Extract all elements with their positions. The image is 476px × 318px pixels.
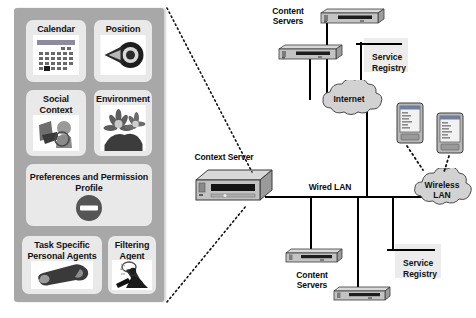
worker-shovel-icon — [112, 260, 152, 290]
tile-task-specific-agents[interactable]: Task Specific Personal Agents — [22, 236, 102, 294]
cloud-icon-internet: Internet — [313, 80, 385, 118]
wired-lan-bus — [265, 196, 425, 198]
tile-preferences-permission-label: Preferences and Permission Profile — [26, 172, 152, 193]
plants-flowers-icon — [101, 105, 146, 151]
tile-task-specific-agents-label: Task Specific Personal Agents — [22, 240, 102, 261]
tile-calendar[interactable]: Calendar — [26, 20, 86, 82]
server-icon-left — [274, 44, 344, 62]
wire-bus-to-service-registry-bottom — [392, 197, 394, 249]
dotted-link-pda-left — [407, 146, 423, 170]
pda-device-icon-left — [396, 102, 424, 144]
internet-cloud-label: Internet — [313, 80, 385, 118]
tile-filtering-agent-label: Filtering Agent — [108, 240, 156, 261]
wire-left-server-to-internet — [309, 58, 311, 100]
dotted-line-bottom — [167, 206, 246, 302]
wrench-icon — [31, 261, 93, 289]
server-icon-top — [316, 8, 386, 26]
target-arrow-icon — [101, 35, 146, 75]
wireless-lan-cloud-label: Wireless LAN — [408, 168, 476, 212]
diagram-canvas: Calendar — [0, 0, 476, 318]
tile-preferences-permission[interactable]: Preferences and Permission Profile — [26, 164, 152, 226]
pda-device-icon-right — [436, 112, 464, 154]
calendar-icon — [33, 35, 79, 75]
tile-environment-label: Environment — [94, 94, 152, 105]
context-server-icon — [192, 168, 276, 204]
tile-social-context[interactable]: Social Context — [26, 90, 86, 156]
tile-filtering-agent[interactable]: Filtering Agent — [108, 236, 156, 294]
tile-position-label: Position — [94, 24, 152, 35]
server-icon-bottom-left — [282, 248, 344, 265]
tile-environment[interactable]: Environment — [94, 90, 152, 156]
service-registry-top-label: Service Registry — [372, 52, 406, 73]
tile-social-context-label: Social Context — [26, 94, 86, 115]
registry-top-crossbar — [356, 43, 402, 45]
service-registry-bottom-label: Service Registry — [403, 258, 437, 279]
no-entry-icon — [75, 194, 103, 222]
context-server-label: Context Server — [186, 152, 262, 162]
handshake-people-icon — [33, 115, 79, 151]
tile-position[interactable]: Position — [94, 20, 152, 82]
wired-lan-label: Wired LAN — [300, 182, 360, 192]
server-icon-bottom-right — [330, 286, 392, 303]
cloud-icon-wireless-lan: Wireless LAN — [408, 168, 476, 212]
content-servers-top-label: Content Servers — [262, 6, 314, 26]
client-context-panel: Calendar — [14, 8, 164, 302]
wire-internet-to-wired-lan — [366, 105, 368, 197]
wire-bus-to-content-server-bottom — [357, 197, 359, 288]
wire-bus-to-content-server-left — [310, 197, 312, 251]
tile-calendar-label: Calendar — [26, 24, 86, 35]
dotted-line-top — [167, 8, 252, 172]
registry-bottom-crossbar — [387, 249, 435, 251]
